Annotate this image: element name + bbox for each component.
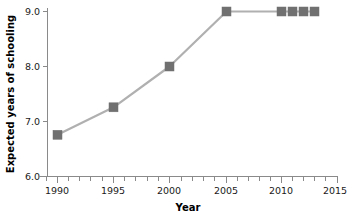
x-tick-label-2000: 2000 [157, 185, 181, 196]
y-tick-label-8: 8.0 [25, 61, 40, 72]
x-axis-major-ticks [58, 177, 338, 183]
x-tick-label-2015: 2015 [323, 185, 347, 196]
x-tick-label-2010: 2010 [269, 185, 293, 196]
y-tick-label-6: 6.0 [25, 171, 40, 182]
data-point-marker [53, 130, 62, 139]
series-line-path [58, 12, 315, 135]
y-tick-label-9: 9.0 [25, 6, 40, 17]
x-axis-minor-ticks [47, 177, 326, 181]
x-axis: 1990 1995 2000 2005 2010 2015 [38, 177, 347, 197]
data-series-schooling [53, 7, 319, 139]
chart-figure: 9.0 8.0 7.0 6.0 [0, 0, 349, 217]
y-tick-label-7: 7.0 [25, 116, 40, 127]
x-tick-label-1990: 1990 [45, 185, 69, 196]
data-point-marker [299, 7, 308, 16]
data-point-marker [288, 7, 297, 16]
x-tick-label-2005: 2005 [214, 185, 238, 196]
line-chart-plot: 9.0 8.0 7.0 6.0 [0, 0, 349, 217]
data-point-marker [277, 7, 286, 16]
data-point-marker [109, 103, 118, 112]
y-axis: 9.0 8.0 7.0 6.0 [25, 6, 48, 182]
y-axis-title: Expected years of schooling [5, 15, 16, 173]
y-axis-ticks [43, 12, 48, 177]
data-point-marker [165, 62, 174, 71]
data-point-marker [310, 7, 319, 16]
x-axis-title: Year [175, 202, 201, 213]
data-point-marker [222, 7, 231, 16]
x-tick-label-1995: 1995 [101, 185, 125, 196]
